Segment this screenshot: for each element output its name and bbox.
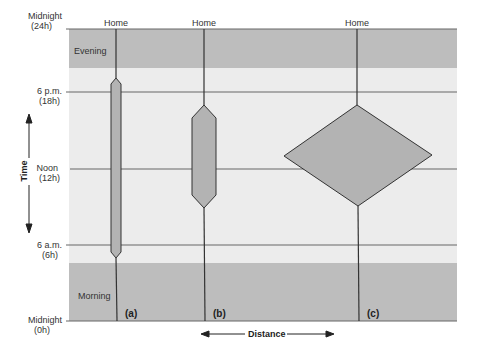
tick-sublabel: (18h) <box>0 96 62 106</box>
prism-a <box>111 78 121 258</box>
tick-sublabel: (24h) <box>0 21 62 31</box>
tick-sublabel: (12h) <box>0 173 62 183</box>
evening-label: Evening <box>74 46 107 56</box>
tick-label: Noon <box>0 163 62 173</box>
home-label-a: Home <box>104 18 128 28</box>
tick-sublabel: (0h) <box>0 325 62 335</box>
time-axis-label: Time <box>19 161 29 182</box>
evening-band <box>69 29 457 68</box>
panel-label-c: (c) <box>367 309 379 319</box>
tick-midnight-24h: Midnight (24h) <box>0 11 62 31</box>
time-geography-diagram <box>0 0 485 355</box>
tick-6pm: 6 p.m. (18h) <box>0 86 62 106</box>
prism-b <box>192 105 216 208</box>
tick-label: 6 p.m. <box>0 86 62 96</box>
tick-label: Midnight <box>0 11 62 21</box>
tick-sublabel: (6h) <box>0 250 62 260</box>
tick-label: 6 a.m. <box>0 240 62 250</box>
morning-label: Morning <box>78 291 111 301</box>
tick-midnight-0h: Midnight (0h) <box>0 315 62 335</box>
panel-label-b: (b) <box>213 309 226 319</box>
distance-axis-label: Distance <box>248 329 286 339</box>
tick-label: Midnight <box>0 315 62 325</box>
panel-label-a: (a) <box>125 309 137 319</box>
home-label-b: Home <box>192 18 216 28</box>
home-label-c: Home <box>345 18 369 28</box>
tick-noon: Noon (12h) <box>0 163 62 183</box>
tick-6am: 6 a.m. (6h) <box>0 240 62 260</box>
